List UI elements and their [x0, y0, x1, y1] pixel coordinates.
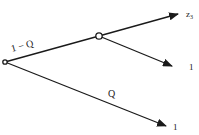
probability-tree-diagram: 1 − Q Q z3 1 1 — [0, 0, 199, 135]
leaf-label-bottom-1: 1 — [173, 122, 178, 132]
middle-node — [96, 33, 102, 39]
edge-label-1-minus-q: 1 − Q — [10, 37, 36, 54]
edge-root-to-bottom-leaf — [5, 62, 166, 126]
edge-middle-to-top-leaf — [99, 14, 178, 36]
edge-middle-to-mid-leaf — [99, 36, 172, 66]
root-node — [3, 60, 7, 64]
leaf-label-z-subscript: 3 — [190, 14, 193, 20]
edge-label-q: Q — [108, 88, 116, 99]
leaf-label-mid-1: 1 — [189, 62, 194, 72]
leaf-label-z3: z3 — [186, 9, 193, 20]
